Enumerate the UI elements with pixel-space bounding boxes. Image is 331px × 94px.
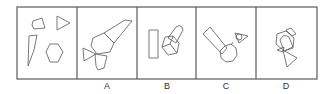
small-rectangle (286, 28, 296, 36)
grid-frame (17, 7, 317, 79)
option-c-figure[interactable] (203, 27, 248, 62)
rounded-quadrilateral (168, 26, 183, 44)
long-quadrilateral-piece (28, 35, 37, 66)
hexagon (91, 33, 114, 54)
triangle (283, 50, 297, 67)
option-a-figure[interactable] (83, 20, 132, 70)
question-cell (28, 16, 70, 66)
rectangle (149, 30, 158, 58)
option-label-a[interactable]: A (77, 81, 137, 91)
option-b-figure[interactable] (149, 26, 183, 59)
outer-frame (17, 7, 317, 79)
long-quadrilateral (104, 20, 132, 43)
option-d-figure[interactable] (276, 28, 297, 67)
option-label-b[interactable]: B (137, 81, 197, 91)
option-label-c[interactable]: C (196, 81, 256, 91)
puzzle-figure (0, 0, 331, 94)
quadrilateral (95, 54, 107, 70)
quadrilateral-piece (32, 18, 45, 29)
hexagon-piece (46, 44, 63, 62)
triangle-piece (57, 16, 70, 30)
option-label-d[interactable]: D (256, 81, 316, 91)
inner-lines (162, 44, 177, 53)
long-quadrilateral (203, 27, 227, 54)
